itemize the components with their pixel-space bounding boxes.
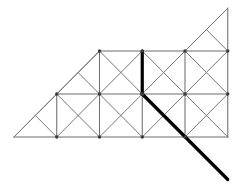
diagonal-step-apex <box>206 30 227 51</box>
joint-node <box>141 135 144 138</box>
diagonal-step-left-a <box>35 116 56 138</box>
joint-node <box>98 92 101 95</box>
joint-node <box>140 92 144 96</box>
joint-node <box>183 135 186 138</box>
joint-node <box>55 135 58 138</box>
joint-node <box>98 135 101 138</box>
joint-node <box>141 49 144 52</box>
panel-diagonals-top-row <box>100 51 228 94</box>
joint-node <box>183 92 186 95</box>
chord-lines <box>14 51 228 137</box>
diagonal-step-left-b <box>78 73 99 95</box>
truss-diagram <box>0 0 246 193</box>
truss-svg-canvas <box>0 0 246 193</box>
joint-node <box>55 92 58 95</box>
joint-node <box>226 92 229 95</box>
joint-node <box>98 49 101 52</box>
joint-node <box>226 49 229 52</box>
joint-node <box>183 49 186 52</box>
